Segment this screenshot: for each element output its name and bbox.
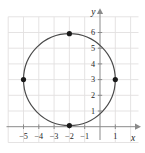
coordinate-plane-svg: −5 −4 −3 −2 −1 1 1 2 3 4 5 6 x y [0,0,145,153]
point-bottom [67,123,72,128]
x-tick-label: −2 [65,132,74,141]
y-tick-label: 6 [91,28,95,37]
x-tick-label: −4 [34,132,43,141]
y-axis [97,8,103,140]
x-axis [7,124,142,130]
x-tick-label: 1 [113,132,117,141]
x-tick-label: −5 [19,132,28,141]
y-axis-label: y [90,7,96,17]
graph-figure: −5 −4 −3 −2 −1 1 1 2 3 4 5 6 x y [0,0,145,153]
x-axis-tick-labels: −5 −4 −3 −2 −1 1 [19,132,117,141]
x-axis-label: x [130,133,136,143]
x-tick-label: −1 [80,132,89,141]
y-tick-label: 4 [91,60,95,69]
y-tick-label: 5 [91,44,95,53]
y-tick-label: 3 [91,75,95,84]
y-tick-label: 1 [91,107,95,116]
x-tick-label: −3 [50,132,59,141]
point-left [21,77,26,82]
grid-horizontal [8,17,138,143]
y-tick-label: 2 [91,91,95,100]
point-right [113,77,118,82]
point-top [67,31,72,36]
